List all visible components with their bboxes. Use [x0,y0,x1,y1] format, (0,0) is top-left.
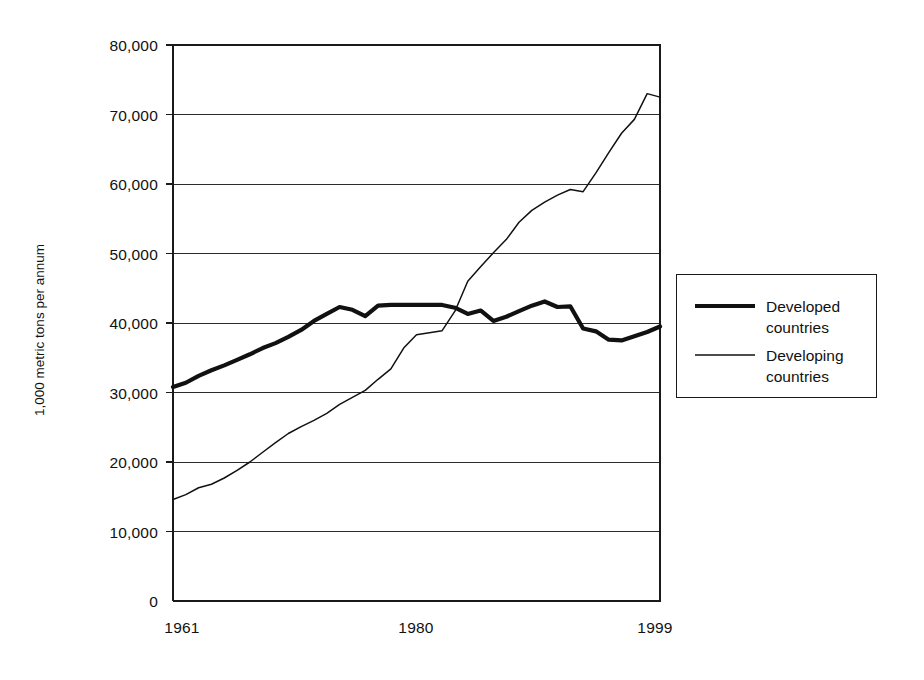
legend-label-developed-line1: Developed [766,298,840,315]
x-axis-tick-labels: 1961 1980 1999 [164,619,672,636]
y-label-60000: 60,000 [109,176,158,193]
y-label-20000: 20,000 [109,454,158,471]
y-label-40000: 40,000 [109,315,158,332]
line-chart: 80,000 70,000 60,000 50,000 40,000 30,00… [0,0,924,680]
legend-label-developed-line2: countries [766,319,829,336]
legend: Developed countries Developing countries [677,275,877,398]
x-label-1980: 1980 [398,619,433,636]
chart-figure: 80,000 70,000 60,000 50,000 40,000 30,00… [0,0,924,680]
y-label-30000: 30,000 [109,385,158,402]
x-label-1999: 1999 [637,619,672,636]
y-label-0: 0 [149,593,158,610]
legend-label-developing-line1: Developing [766,347,844,364]
x-label-1961: 1961 [164,619,199,636]
y-axis-title: 1,000 metric tons per annum [32,244,47,416]
y-axis-ticks [166,45,173,532]
y-label-10000: 10,000 [109,524,158,541]
y-label-80000: 80,000 [109,37,158,54]
legend-label-developing-line2: countries [766,368,829,385]
y-axis-tick-labels: 80,000 70,000 60,000 50,000 40,000 30,00… [109,37,158,610]
y-label-50000: 50,000 [109,246,158,263]
y-label-70000: 70,000 [109,107,158,124]
